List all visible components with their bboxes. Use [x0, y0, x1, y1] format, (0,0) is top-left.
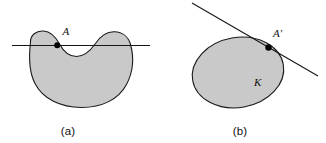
point-a-prime-marker: [265, 44, 271, 50]
point-a-prime-label: A': [272, 27, 283, 39]
caption-b: (b): [233, 125, 248, 137]
figure-svg: A (a) A' K (b): [0, 0, 326, 143]
caption-a: (a): [61, 125, 76, 137]
point-a-label: A: [62, 25, 70, 37]
point-a-marker: [54, 42, 60, 48]
bean-region-shape: [30, 31, 133, 108]
panel-a-group: A (a): [12, 25, 150, 138]
ellipse-region-k: [187, 30, 290, 115]
panel-b-group: A' K (b): [187, 3, 318, 137]
figure-container: A (a) A' K (b): [0, 0, 326, 143]
region-k-label: K: [253, 76, 262, 88]
